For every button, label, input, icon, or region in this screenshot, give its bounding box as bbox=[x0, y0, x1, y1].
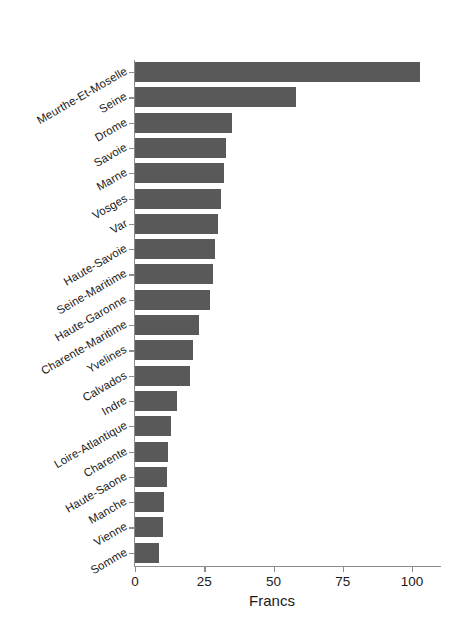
y-axis-tick bbox=[129, 325, 134, 326]
y-axis-tick-label: Seine bbox=[97, 90, 129, 115]
bar bbox=[135, 189, 221, 209]
y-axis-tick bbox=[129, 249, 134, 250]
x-axis-tick-label: 75 bbox=[335, 574, 350, 589]
bar bbox=[135, 366, 190, 386]
y-axis-tick bbox=[129, 72, 134, 73]
bar bbox=[135, 517, 163, 537]
bar bbox=[135, 391, 177, 411]
y-axis-tick bbox=[129, 148, 134, 149]
bar bbox=[135, 264, 213, 284]
x-axis-tick-label: 25 bbox=[197, 574, 212, 589]
x-axis-tick bbox=[412, 567, 413, 572]
bar bbox=[135, 416, 171, 436]
y-axis-tick-label: Var bbox=[108, 217, 129, 236]
bar bbox=[135, 442, 168, 462]
x-axis-title: Francs bbox=[0, 592, 452, 609]
y-axis-tick bbox=[129, 426, 134, 427]
x-axis-tick bbox=[204, 567, 205, 572]
y-axis-tick bbox=[129, 527, 134, 528]
bar-chart: Meurthe-Et-MoselleSeineDromeSavoieMarneV… bbox=[0, 0, 452, 630]
y-axis-tick-label: Savoie bbox=[92, 141, 129, 169]
x-axis-tick-label: 100 bbox=[401, 574, 424, 589]
x-axis-tick-label: 0 bbox=[131, 574, 139, 589]
y-axis-tick-label: Vienne bbox=[92, 520, 129, 548]
y-axis-tick bbox=[129, 199, 134, 200]
bar bbox=[135, 62, 420, 82]
y-axis-tick bbox=[129, 553, 134, 554]
x-axis-tick bbox=[135, 567, 136, 572]
bar bbox=[135, 543, 159, 563]
y-axis-tick bbox=[129, 452, 134, 453]
y-axis-tick bbox=[129, 300, 134, 301]
y-axis-tick-label: Indre bbox=[100, 394, 129, 418]
bar bbox=[135, 163, 224, 183]
bar bbox=[135, 467, 167, 487]
bar bbox=[135, 492, 164, 512]
bar bbox=[135, 87, 296, 107]
y-axis-tick bbox=[129, 97, 134, 98]
y-axis-tick-labels: Meurthe-Et-MoselleSeineDromeSavoieMarneV… bbox=[0, 0, 126, 630]
bar bbox=[135, 290, 210, 310]
y-axis-tick-label: Drome bbox=[93, 115, 129, 143]
y-axis-tick bbox=[129, 350, 134, 351]
y-axis-tick bbox=[129, 477, 134, 478]
y-axis-tick-label: Somme bbox=[88, 545, 129, 575]
bar bbox=[135, 315, 199, 335]
plot-area bbox=[135, 62, 412, 570]
y-axis-tick bbox=[129, 376, 134, 377]
x-axis-tick bbox=[274, 567, 275, 572]
y-axis-tick bbox=[129, 274, 134, 275]
y-axis-tick bbox=[129, 401, 134, 402]
y-axis-tick bbox=[129, 123, 134, 124]
y-axis-tick bbox=[129, 173, 134, 174]
x-axis-tick bbox=[343, 567, 344, 572]
x-axis-tick-label: 50 bbox=[266, 574, 281, 589]
bar bbox=[135, 214, 218, 234]
y-axis-tick-label: Marne bbox=[94, 166, 129, 193]
bar bbox=[135, 138, 226, 158]
bar bbox=[135, 340, 193, 360]
bar bbox=[135, 113, 232, 133]
y-axis-tick bbox=[129, 224, 134, 225]
x-axis-title-text: Francs bbox=[249, 592, 295, 609]
bar bbox=[135, 239, 215, 259]
y-axis-tick bbox=[129, 502, 134, 503]
